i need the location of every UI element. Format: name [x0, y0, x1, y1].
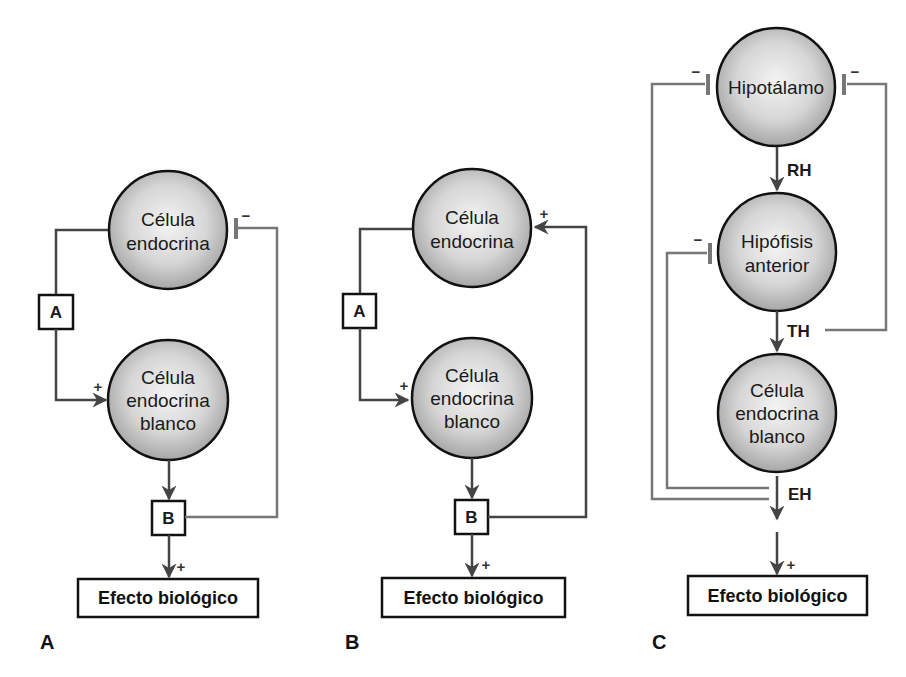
- panel-label-a: A: [40, 631, 54, 653]
- box-b-label: B: [162, 509, 174, 528]
- pituitary-label-2: anterior: [745, 255, 810, 276]
- target-cell-label-3: blanco: [444, 411, 500, 432]
- secretion-line-b: [360, 229, 413, 294]
- sign-plus-effect: +: [177, 558, 186, 575]
- effect-label: Efecto biológico: [707, 586, 847, 606]
- endocrine-cell: [413, 169, 531, 287]
- target-cell-label-3: blanco: [140, 413, 196, 434]
- target-cell-label-2: endocrina: [126, 390, 210, 411]
- endocrine-cell-label-1: Célula: [141, 209, 195, 230]
- sign-plus-target: +: [400, 377, 409, 394]
- box-a-label: A: [353, 302, 365, 321]
- sign-plus-effect: +: [787, 556, 796, 573]
- target-cell-label-1: Célula: [141, 367, 195, 388]
- anterior-pituitary: [718, 193, 836, 311]
- target-cell-label-1: Célula: [445, 365, 499, 386]
- sign-minus-feedback: −: [242, 207, 251, 224]
- target-cell-label-2: endocrina: [735, 403, 819, 424]
- hormone-eh-label: EH: [788, 485, 812, 504]
- endocrine-feedback-diagram: A + Célula endocrina Célula endocrina bl…: [0, 0, 906, 677]
- sign-minus-pituitary: −: [694, 231, 703, 248]
- endocrine-cell: [109, 171, 227, 289]
- hormone-rh-label: RH: [787, 161, 812, 180]
- box-b-label: B: [465, 508, 477, 527]
- panel-a: A + Célula endocrina Célula endocrina bl…: [39, 171, 277, 653]
- sign-minus-hypo-right: −: [851, 63, 860, 80]
- short-feedback-line-th: [825, 84, 886, 330]
- box-a-label: A: [50, 303, 62, 322]
- effect-label: Efecto biológico: [403, 588, 543, 608]
- sign-plus-target: +: [94, 378, 103, 395]
- hypothalamus-label: Hipotálamo: [728, 77, 824, 98]
- endocrine-cell-label-2: endocrina: [126, 233, 210, 254]
- hormone-th-label: TH: [787, 322, 810, 341]
- target-cell-label-1: Célula: [750, 380, 804, 401]
- sign-plus-feedback: +: [540, 205, 549, 222]
- panel-b: A + Célula endocrina Célula endocrina bl…: [343, 169, 586, 653]
- sign-plus-effect: +: [482, 556, 491, 573]
- target-cell-label-2: endocrina: [430, 388, 514, 409]
- panel-label-c: C: [652, 631, 666, 653]
- endocrine-cell-label-2: endocrina: [430, 231, 514, 252]
- pituitary-label-1: Hipófisis: [741, 231, 813, 252]
- panel-c: − − − Hipotálamo RH Hipófisis anterior T…: [652, 28, 886, 653]
- target-cell-label-3: blanco: [749, 426, 805, 447]
- effect-label: Efecto biológico: [98, 588, 238, 608]
- secretion-line-a: [56, 230, 110, 295]
- endocrine-cell-label-1: Célula: [445, 207, 499, 228]
- panel-label-b: B: [345, 631, 359, 653]
- sign-minus-hypo-left: −: [692, 63, 701, 80]
